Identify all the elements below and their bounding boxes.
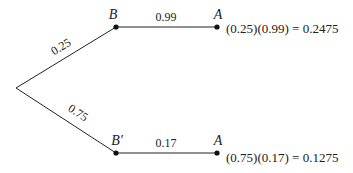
- node-b-label: B: [109, 7, 118, 22]
- prob-b-to-a: 0.99: [156, 10, 177, 24]
- node-b-dot: [113, 24, 118, 29]
- node-a-top-dot: [214, 24, 219, 29]
- result-bottom: (0.75)(0.17) = 0.1275: [226, 150, 338, 165]
- prob-root-to-b: 0.25: [48, 35, 73, 58]
- node-a-bottom-dot: [214, 150, 219, 155]
- edge-root-to-b-prime: [16, 88, 116, 153]
- result-top: (0.25)(0.99) = 0.2475: [226, 21, 338, 36]
- node-b-prime-label: B′: [111, 133, 124, 148]
- prob-root-to-b-prime: 0.75: [66, 101, 91, 124]
- node-b-prime-dot: [113, 150, 118, 155]
- prob-b-prime-to-a: 0.17: [156, 136, 177, 150]
- node-a-top-label: A: [213, 7, 223, 22]
- probability-tree: B A B′ A 0.25 0.75 0.99 0.17 (0.25)(0.99…: [0, 0, 353, 173]
- node-a-bottom-label: A: [213, 133, 223, 148]
